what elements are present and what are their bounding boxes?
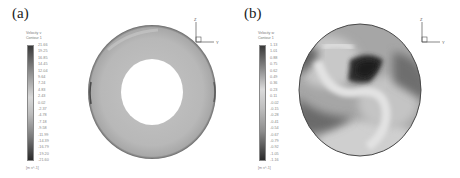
tick-label: -1.05 [270,152,279,156]
legend-contour-a: Contour 1 [26,36,42,41]
colorbar-ticks-a: 21.66 19.25 16.85 14.45 12.04 9.64 7.24 … [38,43,60,163]
tick-label: 1.13 [270,43,277,47]
tick-label: -14.39 [38,139,49,143]
tick-label: -0.15 [270,107,279,111]
tick-label: 16.85 [38,56,48,60]
tick-label: 2.43 [38,94,45,98]
svg-text:Z: Z [194,18,197,22]
tick-label: 0.75 [270,62,277,66]
tick-label: -0.54 [270,126,279,130]
tick-label: -2.37 [38,107,47,111]
svg-text:Z: Z [420,18,423,22]
legend-title-a: Velocity v Contour 1 [26,31,42,41]
tick-label: 19.25 [38,49,48,53]
panel-label-b: (b) [244,5,262,22]
panel-b: (b) Velocity w Contour 1 1.13 1.01 0.88 … [232,0,460,178]
units-label-a: [m s^-1] [26,166,39,170]
tick-label: 0.62 [270,69,277,73]
tick-label: -16.79 [38,145,49,149]
tick-label: 7.24 [38,81,45,85]
tick-label: -4.78 [38,113,47,117]
legend-contour-b: Contour 1 [258,36,274,41]
tick-label: -0.28 [270,113,279,117]
tick-label: -9.58 [38,126,47,130]
tick-label: 4.83 [38,88,45,92]
svg-text:Y: Y [216,40,219,45]
tick-label: 0.11 [270,94,277,98]
tick-label: -11.99 [38,133,48,137]
axis-triad-b: Z Y [418,18,448,46]
tick-label: 1.01 [270,49,277,53]
colorbar-b [259,45,266,161]
contour-plot-disk [298,22,428,158]
tick-label: 0.49 [270,75,277,79]
tick-label: -0.92 [270,145,279,149]
tick-label: -0.41 [270,120,279,124]
tick-label: -0.79 [270,139,279,143]
axis-triad-a: Z Y [192,18,222,46]
tick-label: 0.23 [270,88,277,92]
tick-label: -19.20 [38,152,49,156]
svg-text:Y: Y [442,40,445,45]
tick-label: 14.45 [38,62,48,66]
tick-label: -1.16 [270,158,279,162]
colorbar-a [27,45,34,161]
tick-label: -0.67 [270,133,279,137]
units-label-b: [m s^-1] [258,166,271,170]
tick-label: 0.36 [270,81,277,85]
tick-label: -7.18 [38,120,47,124]
tick-label: 0.02 [38,101,45,105]
panel-a: (a) Velocity v Contour 1 21.66 19.25 16.… [0,0,230,178]
tick-label: 12.04 [38,69,48,73]
tick-label: 21.66 [38,43,48,47]
tick-label: 0.88 [270,56,277,60]
legend-title-b: Velocity w Contour 1 [258,31,274,41]
tick-label: 9.64 [38,75,45,79]
tick-label: -21.60 [38,158,49,162]
colorbar-ticks-b: 1.13 1.01 0.88 0.75 0.62 0.49 0.36 0.23 … [270,43,292,163]
panel-label-a: (a) [12,5,29,22]
tick-label: -0.02 [270,101,279,105]
